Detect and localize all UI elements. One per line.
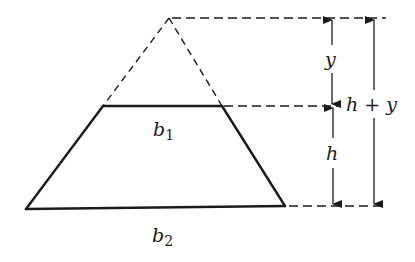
trapezoid-diagram: y h h + y b1 b2 (0, 0, 415, 262)
dashed-left-edge (103, 18, 169, 106)
label-b2-sub: 2 (164, 233, 173, 249)
dashed-right-edge (169, 18, 222, 106)
bottom-base-b2 (26, 206, 285, 209)
label-h-plus-y: h + y (346, 93, 397, 115)
removed-triangle (103, 18, 222, 106)
left-leg (26, 106, 103, 209)
label-b1: b1 (153, 118, 174, 143)
right-leg (222, 106, 285, 206)
label-b1-main: b (153, 118, 165, 140)
label-b2-main: b (152, 224, 164, 246)
label-y: y (324, 48, 336, 70)
label-h: h (326, 142, 338, 164)
label-b2: b2 (152, 224, 173, 249)
label-b1-sub: 1 (165, 127, 174, 143)
